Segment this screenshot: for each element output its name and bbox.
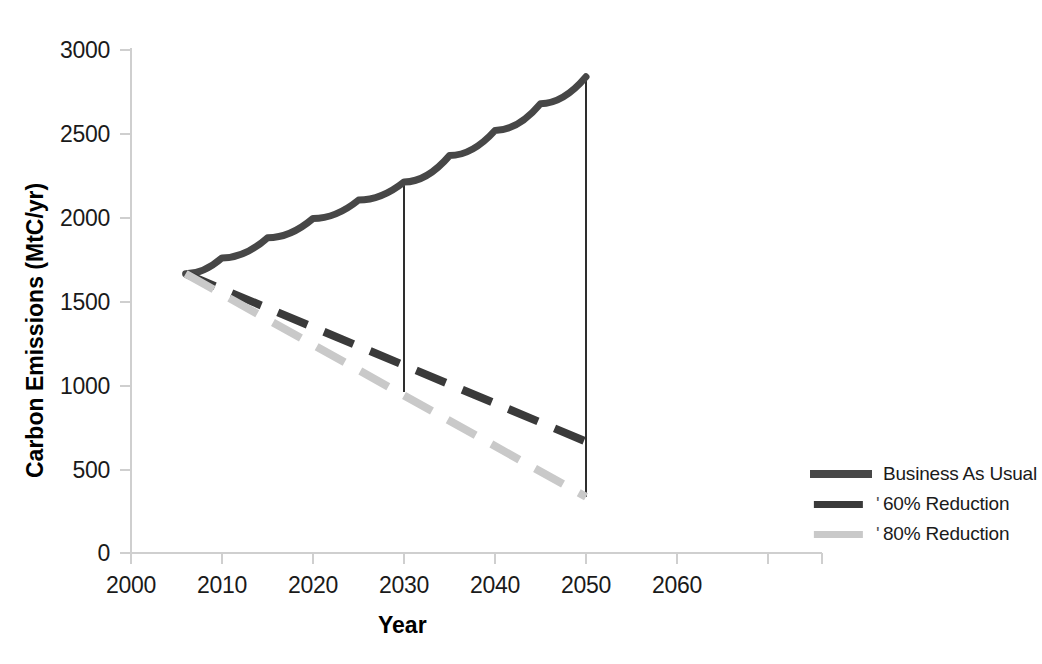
legend-item-80-reduction: ' 80% Reduction: [810, 521, 1009, 547]
legend-marker-60: ': [876, 493, 883, 515]
series-line-business-as-usual: [186, 77, 586, 274]
legend-label-business-as-usual: Business As Usual: [883, 463, 1037, 485]
legend-swatch-dashed-dark-icon: [810, 501, 872, 508]
x-axis-title: Year: [378, 612, 427, 639]
x-tick-label-2060: 2060: [652, 572, 702, 599]
x-tick-label-2000: 2000: [106, 572, 156, 599]
legend-marker-80: ': [876, 523, 883, 545]
x-axis-ticks: [131, 553, 822, 564]
legend-item-60-reduction: ' 60% Reduction: [810, 491, 1009, 517]
series-line-80-reduction: [186, 274, 586, 497]
y-tick-label-2500: 2500: [34, 121, 110, 148]
legend-swatch-solid-icon: [810, 470, 872, 478]
x-tick-label-2050: 2050: [561, 572, 611, 599]
y-axis-ticks: [120, 50, 131, 553]
legend-label-60-reduction: 60% Reduction: [883, 493, 1009, 515]
x-tick-label-2040: 2040: [470, 572, 520, 599]
chart-figure: 3000 2500 2000 1500 1000 500 0 2000 2010…: [0, 0, 1042, 664]
y-tick-label-0: 0: [34, 540, 110, 567]
legend-label-80-reduction: 80% Reduction: [883, 523, 1009, 545]
x-tick-label-2020: 2020: [288, 572, 338, 599]
y-axis-title: Carbon Emissions (MtC/yr): [22, 183, 49, 478]
x-tick-label-2010: 2010: [197, 572, 247, 599]
y-tick-label-3000: 3000: [34, 37, 110, 64]
emissions-line-chart: [0, 0, 1042, 664]
legend-swatch-dashed-light-icon: [810, 531, 872, 538]
series-line-60-reduction: [186, 274, 586, 442]
x-tick-label-2030: 2030: [379, 572, 429, 599]
legend-item-business-as-usual: Business As Usual: [810, 461, 1037, 487]
